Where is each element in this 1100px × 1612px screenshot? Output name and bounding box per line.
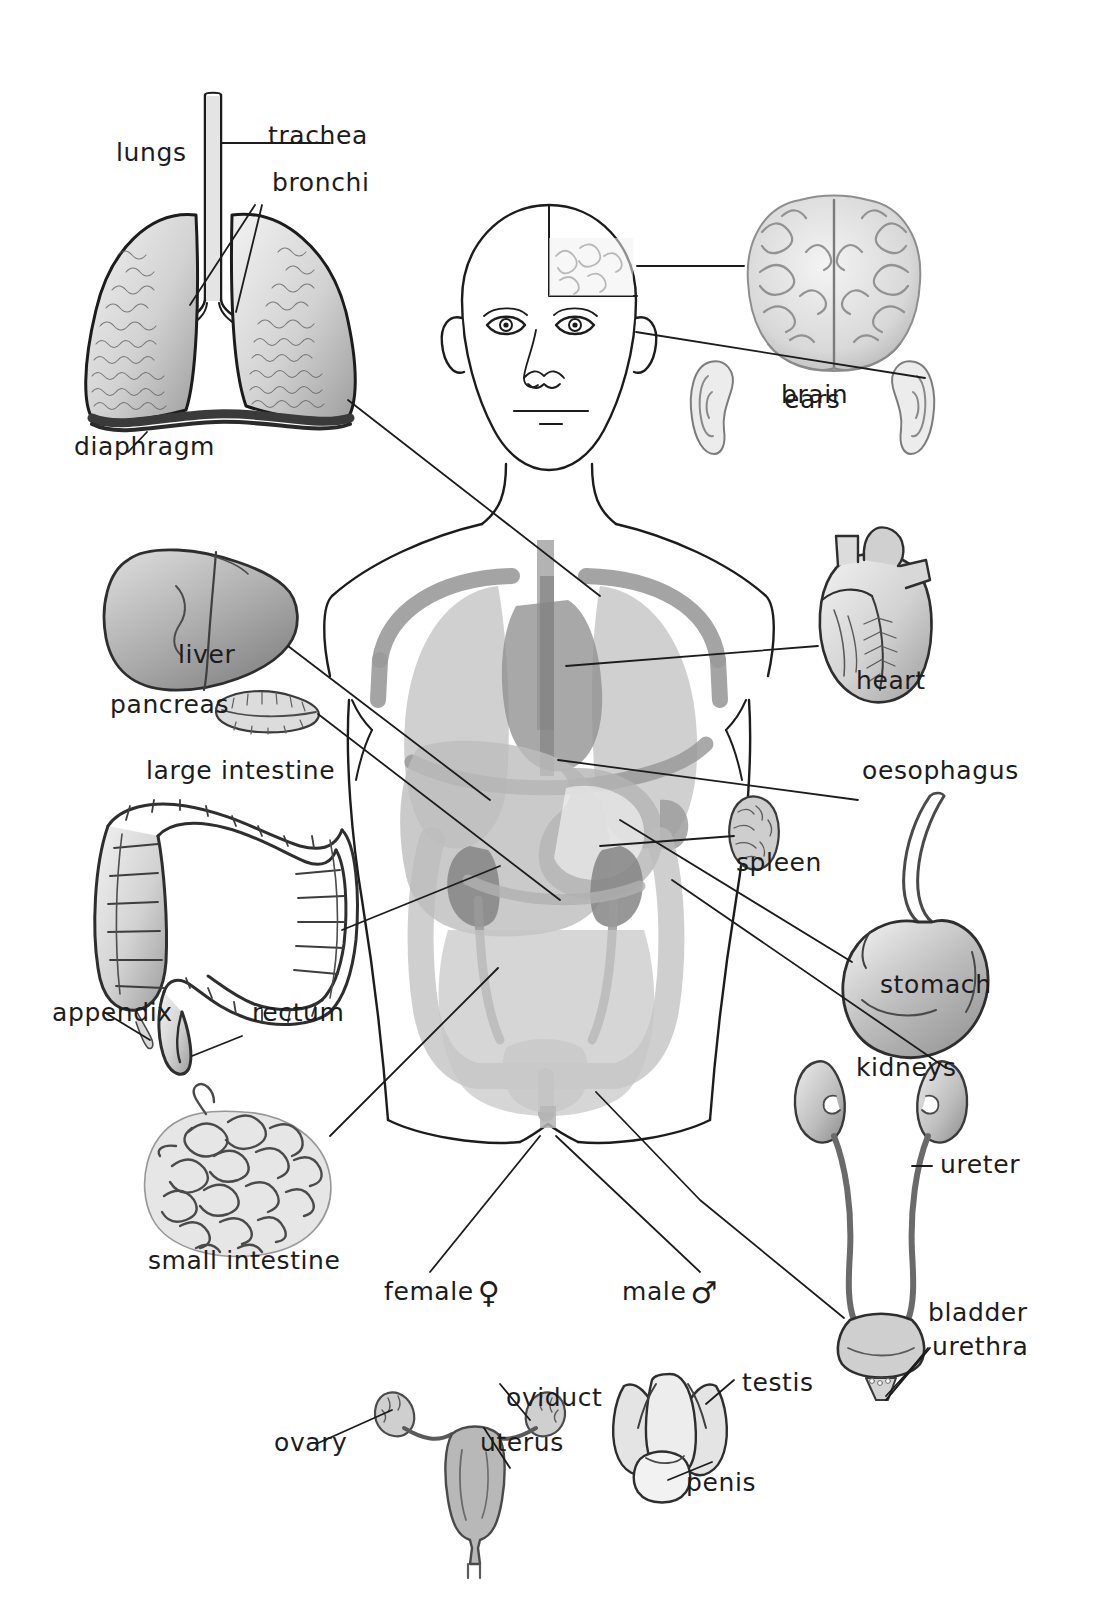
leader-rectum	[192, 1036, 242, 1056]
label-kidneys: kidneys	[856, 1055, 957, 1080]
leader-male	[556, 1136, 700, 1272]
brain-illustration	[748, 196, 921, 372]
stomach-illustration	[843, 793, 988, 1058]
male-symbol-icon: ♂	[690, 1275, 718, 1310]
label-ureter: ureter	[940, 1152, 1020, 1177]
female-reproductive-illustration	[375, 1392, 565, 1578]
label-diaphragm: diaphragm	[74, 434, 215, 459]
label-lungs: lungs	[116, 140, 187, 165]
label-spleen: spleen	[736, 850, 822, 875]
torso-organ-overlay	[378, 540, 720, 1128]
anatomy-artwork	[0, 0, 1100, 1612]
label-appendix: appendix	[52, 1000, 173, 1025]
label-ovary: ovary	[274, 1430, 347, 1455]
diagram-canvas: lungs trachea bronchi diaphragm brain ea…	[0, 0, 1100, 1612]
small-intestine-illustration	[145, 1084, 331, 1256]
pancreas-illustration	[216, 691, 319, 734]
liver-illustration	[104, 550, 297, 690]
label-uterus: uterus	[480, 1430, 564, 1455]
label-trachea: trachea	[268, 123, 368, 148]
large-intestine-illustration	[95, 800, 358, 1074]
leader-female	[430, 1136, 540, 1272]
label-penis: penis	[686, 1470, 756, 1495]
label-female-text: female	[384, 1277, 474, 1306]
label-testis: testis	[742, 1370, 814, 1395]
label-oesophagus: oesophagus	[862, 758, 1019, 783]
label-large-intestine: large intestine	[146, 758, 335, 783]
label-female: female♀	[384, 1278, 500, 1308]
label-urethra: urethra	[932, 1334, 1028, 1359]
label-male-text: male	[622, 1277, 686, 1306]
label-bronchi: bronchi	[272, 170, 369, 195]
label-liver: liver	[178, 642, 235, 667]
label-stomach: stomach	[880, 972, 992, 997]
label-heart: heart	[856, 668, 926, 693]
label-rectum: rectum	[252, 1000, 344, 1025]
label-small-intestine: small intestine	[148, 1248, 341, 1273]
label-bladder: bladder	[928, 1300, 1028, 1325]
label-pancreas: pancreas	[110, 692, 229, 717]
label-oviduct: oviduct	[506, 1385, 603, 1410]
label-ears: ears	[784, 387, 840, 412]
female-symbol-icon: ♀	[478, 1275, 501, 1310]
label-male: male♂	[622, 1278, 718, 1308]
